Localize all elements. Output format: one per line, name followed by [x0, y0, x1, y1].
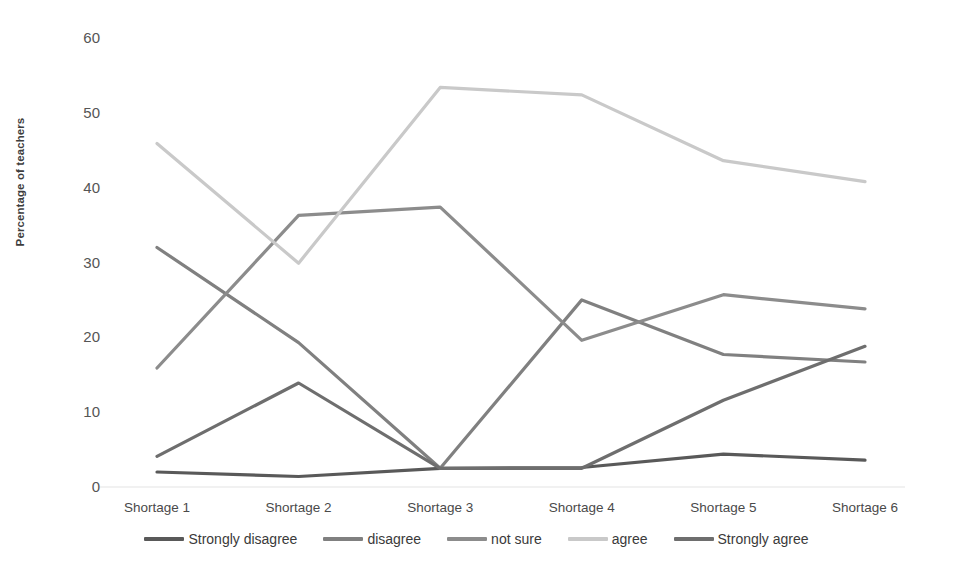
x-axis-tick-label: Shortage 1: [77, 500, 237, 515]
series-line: [157, 248, 865, 469]
legend-item[interactable]: Strongly agree: [674, 531, 809, 547]
x-axis-tick-label: Shortage 5: [643, 500, 803, 515]
legend-label: agree: [612, 531, 648, 547]
legend-label: disagree: [367, 531, 421, 547]
x-axis-tick-label: Shortage 6: [785, 500, 945, 515]
line-chart: Percentage of teachers 6050403020100 Sho…: [0, 0, 953, 585]
x-axis-tick-label: Shortage 3: [360, 500, 520, 515]
series-line: [157, 87, 865, 263]
legend-swatch-icon: [447, 537, 487, 541]
series-line: [157, 454, 865, 476]
legend-swatch-icon: [323, 537, 363, 541]
legend-item[interactable]: disagree: [323, 531, 421, 547]
legend-swatch-icon: [674, 537, 714, 541]
x-axis-tick-label: Shortage 2: [219, 500, 379, 515]
legend-item[interactable]: Strongly disagree: [144, 531, 297, 547]
series-line: [157, 346, 865, 468]
legend-label: not sure: [491, 531, 542, 547]
chart-legend: Strongly disagreedisagreenot sureagreeSt…: [0, 531, 953, 547]
legend-label: Strongly disagree: [188, 531, 297, 547]
legend-item[interactable]: not sure: [447, 531, 542, 547]
legend-item[interactable]: agree: [568, 531, 648, 547]
legend-swatch-icon: [144, 537, 184, 541]
plot-area: [0, 0, 953, 585]
series-lines: [157, 87, 865, 476]
legend-label: Strongly agree: [718, 531, 809, 547]
legend-swatch-icon: [568, 537, 608, 541]
x-axis-tick-label: Shortage 4: [502, 500, 662, 515]
